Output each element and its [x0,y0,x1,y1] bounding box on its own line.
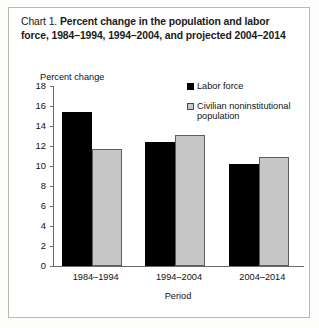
x-axis-tick-label: 1984–1994 [51,272,141,282]
y-axis-tick-label: 16 [26,100,46,111]
bar-groups: 1984–19941994–20042004–2014 [54,86,304,266]
y-axis-tick-label: 0 [26,260,46,271]
chart-title-text: Percent change in the population and lab… [21,16,286,41]
bar [259,157,289,266]
bar-group: 1994–2004 [137,86,220,266]
y-axis-title: Percent change [40,72,104,82]
y-axis-tick-label: 12 [26,140,46,151]
x-axis-tick-label: 2004–2014 [217,272,307,282]
bar-group: 1984–1994 [54,86,137,266]
y-axis-tick-label: 10 [26,160,46,171]
chart-panel: Chart 1. Percent change in the populatio… [8,7,310,318]
y-axis-tick-label: 14 [26,120,46,131]
plot-area: 181614121086420 1984–19941994–20042004–2… [53,86,304,267]
y-axis-tick-label: 2 [26,240,46,251]
chart-title-number: Chart 1. [21,16,57,27]
bar [175,135,205,266]
y-axis-tick-label: 4 [26,220,46,231]
page-background: Chart 1. Percent change in the populatio… [0,0,319,328]
chart-title: Chart 1. Percent change in the populatio… [21,15,299,43]
bar [229,164,259,266]
bar [62,112,92,266]
y-axis-tick-label: 18 [26,80,46,91]
bar-group: 2004–2014 [221,86,304,266]
x-axis-tick-label: 1994–2004 [134,272,224,282]
x-axis-title: Period [53,291,303,301]
bar [92,149,122,266]
y-axis-tick-label: 6 [26,200,46,211]
bar [145,142,175,266]
y-axis-tick-label: 8 [26,180,46,191]
y-axis-tick-mark [50,266,54,267]
